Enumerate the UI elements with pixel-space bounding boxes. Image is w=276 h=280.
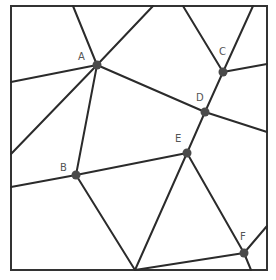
edge-15: [135, 153, 187, 270]
edge-3: [97, 65, 205, 112]
node-label-a: A: [78, 51, 85, 62]
node-label-e: E: [175, 133, 181, 144]
edge-16: [187, 153, 244, 253]
edge-10: [205, 112, 267, 132]
node-e: [183, 149, 192, 158]
edge-6: [183, 6, 223, 72]
node-c: [219, 68, 228, 77]
node-label-b: B: [60, 162, 67, 173]
node-label-d: D: [196, 92, 204, 103]
edges-group: [11, 6, 267, 270]
edge-12: [11, 175, 76, 187]
node-label-c: C: [219, 46, 226, 57]
edge-17: [135, 253, 244, 270]
edge-13: [76, 153, 187, 175]
edge-5: [76, 65, 97, 175]
node-b: [72, 171, 81, 180]
planar-graph-diagram: ABCDEF: [0, 0, 276, 280]
node-label-f: F: [240, 231, 246, 242]
node-a: [93, 61, 102, 70]
edge-7: [223, 6, 253, 72]
edge-1: [97, 6, 153, 65]
node-d: [201, 108, 210, 117]
edge-0: [73, 6, 97, 65]
edge-11: [187, 112, 205, 153]
edge-8: [223, 64, 267, 72]
edge-4: [11, 65, 97, 154]
edge-14: [76, 175, 135, 270]
bounding-frame: [11, 6, 267, 270]
node-f: [240, 249, 249, 258]
edge-9: [205, 72, 223, 112]
edge-18: [244, 226, 267, 253]
